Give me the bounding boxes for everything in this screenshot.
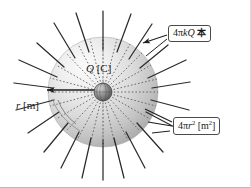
area-callout: 4πr2 [m2] bbox=[173, 117, 220, 135]
flux-callout: 4πkQ 本 bbox=[168, 25, 211, 42]
charge-unit: [C] bbox=[97, 62, 112, 74]
area-unit-close: ] bbox=[212, 120, 215, 131]
flux-q: Q bbox=[188, 27, 195, 38]
flux-suffix: 本 bbox=[197, 28, 206, 38]
radius-unit: [m] bbox=[23, 99, 39, 111]
figure-canvas: Q [C] r [m] 4πkQ 本 4πr2 [m2] bbox=[0, 0, 251, 188]
area-exponent: 2 bbox=[192, 119, 195, 126]
area-unit-open: [m bbox=[198, 120, 209, 131]
area-leader-line-3 bbox=[152, 131, 170, 133]
charge-symbol: Q bbox=[86, 62, 94, 74]
radius-label: r [m] bbox=[16, 100, 39, 111]
charge-label: Q [C] bbox=[86, 63, 111, 74]
diagram-svg bbox=[0, 0, 251, 188]
